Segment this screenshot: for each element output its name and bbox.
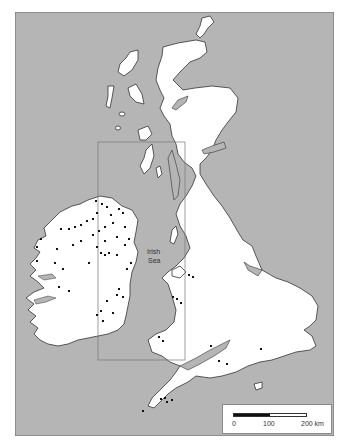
site-marker xyxy=(180,302,182,304)
small-island xyxy=(119,112,125,116)
site-marker xyxy=(104,240,106,242)
scale-tick-0: 0 xyxy=(232,420,236,427)
site-marker xyxy=(260,348,262,350)
scale-bar xyxy=(233,413,307,417)
site-marker xyxy=(60,228,62,230)
site-marker xyxy=(74,226,76,228)
site-marker xyxy=(68,228,70,230)
site-marker xyxy=(192,276,194,278)
site-marker xyxy=(100,252,102,254)
sea-label-line1: Irish xyxy=(147,248,160,255)
site-marker xyxy=(112,222,114,224)
site-marker xyxy=(100,310,102,312)
site-marker xyxy=(92,234,94,236)
site-marker xyxy=(96,246,98,248)
site-marker xyxy=(188,274,190,276)
site-marker xyxy=(58,286,60,288)
site-marker xyxy=(40,238,42,240)
site-marker xyxy=(56,248,58,250)
site-marker xyxy=(116,236,118,238)
site-marker xyxy=(162,340,164,342)
site-marker xyxy=(110,214,112,216)
site-marker xyxy=(118,288,120,290)
scale-bar-box: 0 100 200 km xyxy=(222,404,332,434)
site-marker xyxy=(124,244,126,246)
site-marker xyxy=(96,212,98,214)
scale-tick-200: 200 km xyxy=(301,420,324,427)
site-marker xyxy=(172,296,174,298)
site-marker xyxy=(98,230,100,232)
site-marker xyxy=(80,240,82,242)
site-marker xyxy=(160,398,162,400)
site-marker xyxy=(116,294,118,296)
site-marker xyxy=(130,262,132,264)
site-marker xyxy=(95,200,97,202)
site-marker xyxy=(80,224,82,226)
site-marker xyxy=(104,254,106,256)
site-marker xyxy=(122,212,124,214)
scale-bar-filled-segment xyxy=(234,414,270,416)
site-marker xyxy=(106,206,108,208)
site-marker xyxy=(92,218,94,220)
small-island xyxy=(116,126,121,130)
site-marker xyxy=(128,238,130,240)
site-marker xyxy=(126,268,128,270)
site-marker xyxy=(142,410,144,412)
site-marker xyxy=(158,336,160,338)
site-marker xyxy=(166,401,168,403)
site-marker xyxy=(108,252,110,254)
site-marker xyxy=(88,262,90,264)
site-marker xyxy=(102,320,104,322)
map-canvas: Irish Sea xyxy=(15,12,334,436)
site-marker xyxy=(112,312,114,314)
site-marker xyxy=(118,208,120,210)
site-marker xyxy=(36,246,38,248)
site-marker xyxy=(104,226,106,228)
scale-tick-100: 100 xyxy=(263,420,275,427)
site-marker xyxy=(36,260,38,262)
site-marker xyxy=(164,397,166,399)
site-marker xyxy=(96,314,98,316)
site-marker xyxy=(68,290,70,292)
site-marker xyxy=(210,345,212,347)
site-marker xyxy=(124,226,126,228)
site-marker xyxy=(218,360,220,362)
site-marker xyxy=(116,254,118,256)
site-marker xyxy=(171,399,173,401)
site-marker xyxy=(176,298,178,300)
site-marker xyxy=(86,220,88,222)
map-frame: Irish Sea xyxy=(15,12,334,436)
site-marker xyxy=(54,262,56,264)
site-marker xyxy=(101,203,103,205)
site-marker xyxy=(72,244,74,246)
site-marker xyxy=(226,363,228,365)
site-marker xyxy=(122,296,124,298)
sea-label-line2: Sea xyxy=(148,257,161,264)
site-marker xyxy=(62,268,64,270)
site-marker xyxy=(106,300,108,302)
